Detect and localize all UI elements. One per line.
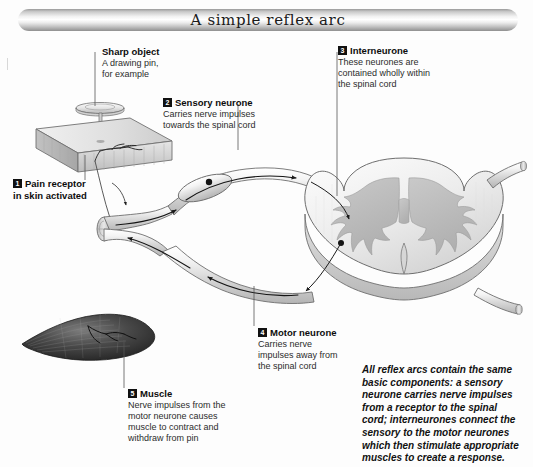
label-number-badge-2: 2 [163, 98, 172, 107]
label-sharp-object-heading: Sharp object [102, 46, 160, 58]
label-pain-receptor: 1Pain receptor in skin activated [13, 178, 87, 202]
label-pain-receptor-line2: in skin activated [13, 190, 87, 202]
label-interneurone-body: These neurones are contained wholly with… [338, 57, 430, 90]
label-sensory-neurone-heading: 2Sensory neurone [163, 97, 256, 109]
label-motor-neurone-body: Carries nerve impulses away from the spi… [258, 339, 338, 372]
label-motor-neurone: 4Motor neurone Carries nerve impulses aw… [258, 327, 338, 372]
sensory-neurone-fibre [168, 168, 314, 215]
label-number-badge-5: 5 [128, 389, 137, 398]
label-motor-neurone-heading: 4Motor neurone [258, 327, 338, 339]
label-muscle: 5Muscle Nerve impulses from the motor ne… [128, 388, 226, 444]
sensory-cell-body [206, 179, 212, 185]
label-interneurone: 3Interneurone These neurones are contain… [338, 45, 430, 90]
summary-text: All reflex arcs contain the same basic c… [362, 364, 533, 465]
label-number-badge-4: 4 [258, 328, 267, 337]
label-sharp-object-body: A drawing pin, for example [102, 58, 160, 80]
label-number-badge-3: 3 [338, 46, 347, 55]
label-sensory-neurone-body: Carries nerve impulses towards the spina… [163, 109, 256, 131]
label-number-badge-1: 1 [13, 179, 22, 188]
motor-neurone-fibre [162, 246, 314, 304]
label-sharp-object: Sharp object A drawing pin, for example [102, 46, 160, 80]
label-sensory-neurone: 2Sensory neurone Carries nerve impulses … [163, 97, 256, 131]
skin-block [36, 118, 172, 172]
nerve-trunk [104, 205, 172, 256]
muscle [22, 314, 155, 360]
sensory-branch-from-skin [95, 161, 110, 218]
spinal-cord-cross-section [305, 158, 503, 300]
label-pain-receptor-heading: 1Pain receptor [13, 178, 87, 190]
label-interneurone-heading: 3Interneurone [338, 45, 430, 57]
label-muscle-body: Nerve impulses from the motor neurone ca… [128, 400, 226, 444]
label-muscle-heading: 5Muscle [128, 388, 226, 400]
reflex-arc-diagram: A simple reflex arc [0, 0, 533, 467]
